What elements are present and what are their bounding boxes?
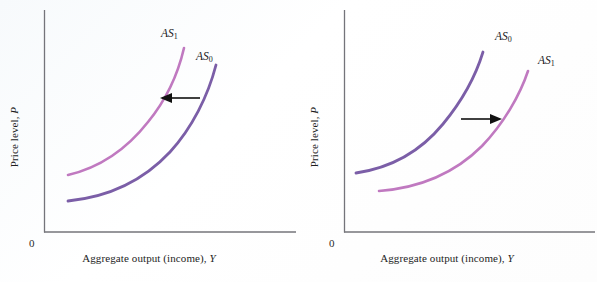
left-panel: AS1 AS0 Price level, P Aggregate output … xyxy=(0,0,298,282)
curve-label-as1: AS1 xyxy=(161,27,178,39)
curve-as0 xyxy=(356,52,483,173)
y-axis-label: Price level, P xyxy=(8,72,20,202)
curve-label-as0: AS0 xyxy=(196,50,213,62)
left-panel-plot xyxy=(0,0,298,282)
origin-label: 0 xyxy=(329,237,335,249)
right-panel-plot xyxy=(298,0,596,282)
curve-as1 xyxy=(379,71,528,191)
curve-as0 xyxy=(68,65,216,201)
origin-label: 0 xyxy=(29,237,35,249)
x-axis-label: Aggregate output (income), Y xyxy=(298,252,596,264)
x-axis-label: Aggregate output (income), Y xyxy=(0,252,298,264)
y-axis-label: Price level, P xyxy=(308,72,320,202)
rightward-shift-arrow xyxy=(461,114,502,124)
curve-label-as0: AS0 xyxy=(495,30,512,42)
right-panel: AS0 AS1 Price level, P Aggregate output … xyxy=(298,0,596,282)
curve-label-as1: AS1 xyxy=(538,54,555,66)
aggregate-supply-shift-figure: AS1 AS0 Price level, P Aggregate output … xyxy=(0,0,597,282)
